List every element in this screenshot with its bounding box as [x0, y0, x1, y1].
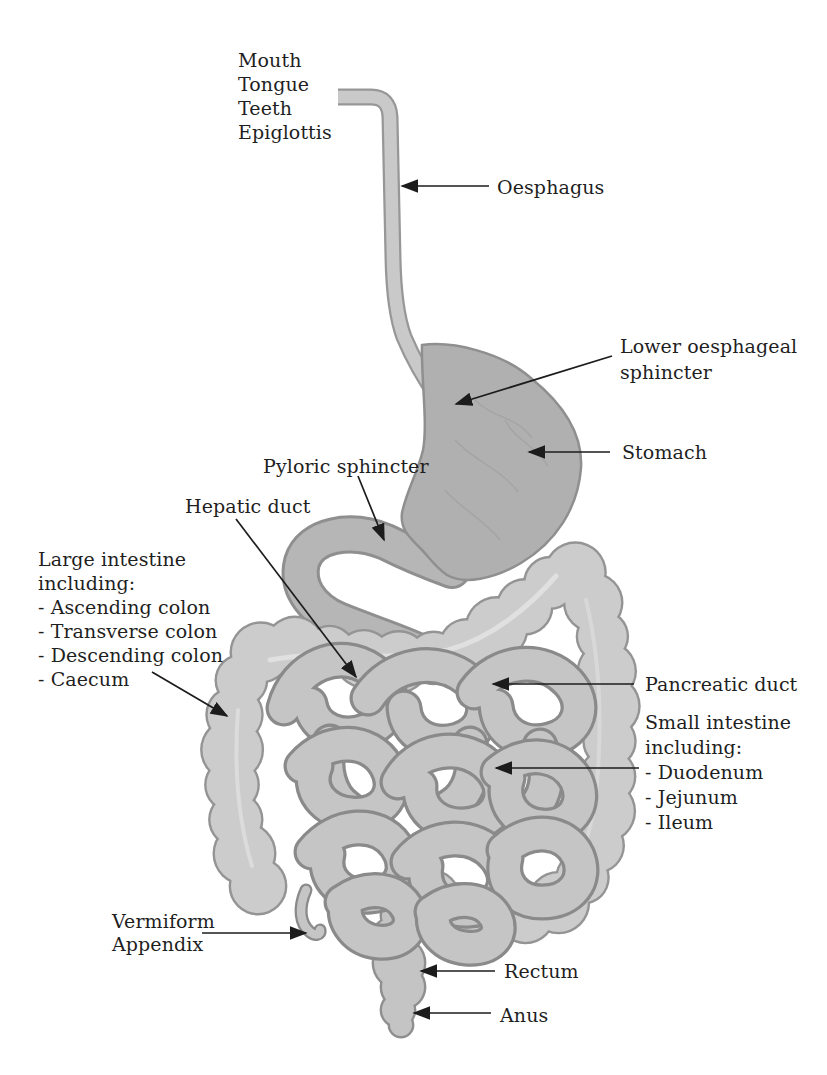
label-line: Mouth: [238, 48, 332, 72]
label-line: Small intestine: [645, 710, 791, 735]
label-line: - Descending colon: [38, 643, 223, 667]
label-line: Teeth: [238, 96, 332, 120]
label-line: sphincter: [620, 359, 797, 385]
label-line: - Transverse colon: [38, 619, 223, 643]
digestive-system-diagram: Mouth Tongue Teeth Epiglottis Oesphagus …: [0, 0, 827, 1075]
label-line: - Caecum: [38, 667, 223, 691]
label-rectum: Rectum: [504, 959, 579, 983]
label-line: Large intestine: [38, 547, 223, 571]
label-large-intestine: Large intestine including: - Ascending c…: [38, 547, 223, 691]
label-line: Vermiform: [112, 910, 215, 933]
label-mouth-group: Mouth Tongue Teeth Epiglottis: [238, 48, 332, 144]
label-vermiform-appendix: Vermiform Appendix: [112, 910, 215, 956]
label-line: Epiglottis: [238, 120, 332, 144]
label-line: Tongue: [238, 72, 332, 96]
label-line: - Ascending colon: [38, 595, 223, 619]
label-stomach: Stomach: [622, 440, 707, 464]
label-line: including:: [38, 571, 223, 595]
appendix-shape: [301, 890, 320, 934]
label-anus: Anus: [500, 1003, 548, 1027]
label-pancreatic-duct: Pancreatic duct: [645, 672, 797, 696]
label-hepatic-duct: Hepatic duct: [185, 494, 311, 518]
label-small-intestine: Small intestine including: - Duodenum - …: [645, 710, 791, 835]
label-line: - Jejunum: [645, 785, 791, 810]
label-line: Lower oesphageal: [620, 333, 797, 359]
label-lower-oesphageal-sphincter: Lower oesphageal sphincter: [620, 333, 797, 385]
label-line: - Duodenum: [645, 760, 791, 785]
label-pyloric-sphincter: Pyloric sphincter: [263, 454, 429, 478]
label-line: - Ileum: [645, 810, 791, 835]
label-line: including:: [645, 735, 791, 760]
label-line: Appendix: [112, 933, 215, 956]
small-intestine-shape: [284, 660, 581, 948]
label-oesphagus: Oesphagus: [497, 175, 604, 199]
